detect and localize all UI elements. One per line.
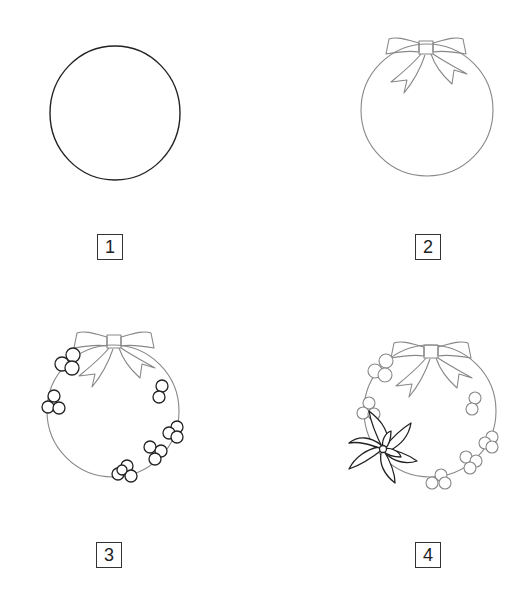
step-2-panel: 2	[265, 0, 530, 299]
poinsettia-flower	[349, 411, 417, 483]
step-1-panel: 1	[0, 0, 265, 299]
wreath-with-berries-drawing	[0, 299, 265, 598]
step-number: 3	[104, 545, 114, 566]
finished-wreath-drawing	[265, 299, 530, 598]
step-number-badge: 4	[415, 542, 441, 568]
step-3-panel: 3	[0, 299, 265, 598]
berry-clusters	[42, 348, 183, 482]
circle-drawing	[0, 0, 265, 299]
step-4-panel: 4	[265, 299, 530, 598]
step-number-badge: 2	[415, 234, 441, 260]
step-number: 1	[105, 237, 115, 258]
step-number: 4	[423, 545, 433, 566]
bauble-with-bow-drawing	[265, 0, 530, 299]
step-number-badge: 3	[96, 542, 122, 568]
step-number: 2	[423, 237, 433, 258]
step-number-badge: 1	[97, 234, 123, 260]
